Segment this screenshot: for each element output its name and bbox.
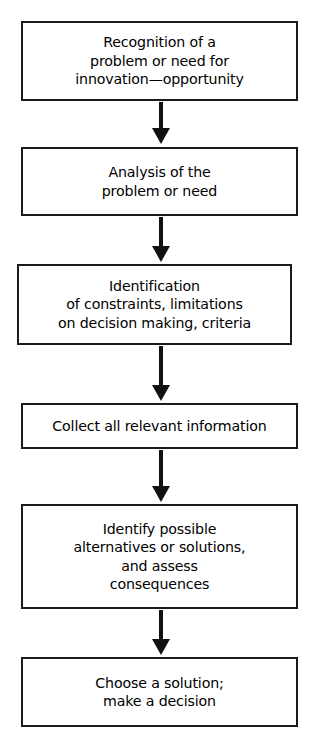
arrow-shaft [159,346,163,386]
arrow-head [152,128,170,144]
arrow-head [152,639,170,655]
down-arrow-icon [152,102,170,144]
arrow-shaft [159,102,163,129]
flowchart-node-6: Choose a solution; make a decision [21,657,298,727]
arrow-head [152,385,170,401]
down-arrow-icon [152,610,170,655]
arrow-shaft [159,450,163,487]
down-arrow-icon [152,217,170,262]
flowchart-node-5: Identify possible alternatives or soluti… [21,504,298,609]
flowchart-node-2-label: Analysis of the problem or need [23,163,296,200]
down-arrow-icon [152,346,170,401]
arrow-shaft [159,217,163,247]
flowchart-node-3: Identification of constraints, limitatio… [17,264,292,345]
down-arrow-icon [152,450,170,502]
flowchart-node-3-label: Identification of constraints, limitatio… [19,277,290,332]
flowchart-diagram: Recognition of a problem or need for inn… [0,0,318,739]
arrow-head [152,486,170,502]
flowchart-node-6-label: Choose a solution; make a decision [23,674,296,711]
arrow-head [152,246,170,262]
flowchart-node-2: Analysis of the problem or need [21,147,298,216]
flowchart-node-1: Recognition of a problem or need for inn… [21,21,298,101]
flowchart-node-4: Collect all relevant information [21,403,298,449]
flowchart-node-4-label: Collect all relevant information [23,417,296,435]
flowchart-node-1-label: Recognition of a problem or need for inn… [23,33,296,88]
arrow-shaft [159,610,163,640]
flowchart-node-5-label: Identify possible alternatives or soluti… [23,520,296,594]
